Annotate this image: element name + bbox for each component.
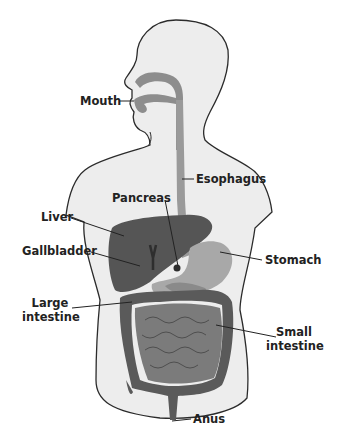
pancreas-duct — [174, 265, 181, 272]
label-large-intestine-line2: intestine — [22, 310, 78, 324]
label-gallbladder: Gallbladder — [22, 244, 97, 258]
label-esophagus: Esophagus — [196, 172, 266, 186]
label-large-intestine-line1: Large — [22, 296, 78, 310]
label-anus: Anus — [193, 412, 225, 426]
label-large-intestine: Large intestine — [22, 296, 78, 324]
label-liver: Liver — [41, 210, 73, 224]
small-intestine — [135, 304, 222, 384]
digestive-system-diagram: Mouth Esophagus Pancreas Liver Gallbladd… — [0, 0, 337, 447]
label-mouth: Mouth — [80, 94, 121, 108]
label-small-intestine-line2: intestine — [266, 339, 322, 353]
label-small-intestine: Small intestine — [266, 325, 322, 353]
label-small-intestine-line1: Small — [266, 325, 322, 339]
label-pancreas: Pancreas — [112, 191, 171, 205]
label-stomach: Stomach — [265, 253, 321, 267]
